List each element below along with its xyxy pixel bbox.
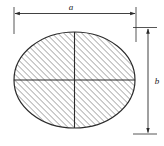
width-dimension-label: a xyxy=(69,2,74,12)
ellipse-dimension-drawing: a b xyxy=(0,0,164,146)
height-dimension-group: b xyxy=(148,29,160,133)
figure-container: a b xyxy=(0,0,164,146)
width-dimension-group: a xyxy=(15,2,135,14)
height-dimension-label: b xyxy=(155,76,160,86)
